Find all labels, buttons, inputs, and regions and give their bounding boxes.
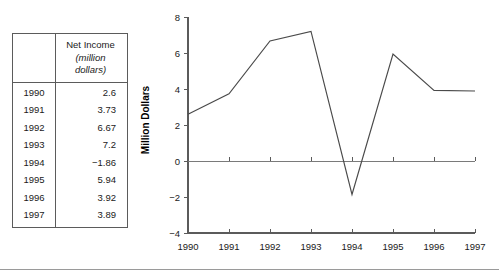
net-income-series-line [188,31,475,194]
row-year: 1992 [13,119,56,137]
table-row: 1997 3.89 [13,207,128,228]
row-year: 1996 [13,189,56,207]
x-axis-tick-label: 1992 [259,241,280,252]
y-axis-tick-label: 6 [175,48,180,59]
table-body: Net Income (million dollars) 1990 2.6 19… [13,34,128,228]
table-header-net-income: Net Income (million dollars) [56,34,128,83]
y-axis-ticks [184,17,188,233]
y-axis-tick-label: 4 [175,84,180,95]
figure-container: Net Income (million dollars) 1990 2.6 19… [0,0,499,277]
row-value: 3.92 [56,189,128,207]
table-corner-cell [13,34,56,83]
table-row: 1990 2.6 [13,82,128,102]
x-axis-tick-labels: 19901991199219931994199519961997 [177,241,485,252]
table-row: 1992 6.67 [13,119,128,137]
header-unit-line2: dollars) [60,64,121,77]
y-axis-tick-label: 8 [175,12,180,23]
row-year: 1990 [13,82,56,102]
x-axis-ticks [188,157,475,233]
x-axis-tick-label: 1990 [177,241,198,252]
x-axis-tick-label: 1997 [464,241,485,252]
x-axis-tick-label: 1993 [300,241,321,252]
y-axis-title: Million Dollars [140,85,151,154]
table-row: 1993 7.2 [13,137,128,155]
header-unit-line1: (million [60,52,121,65]
net-income-table: Net Income (million dollars) 1990 2.6 19… [12,33,128,228]
x-axis-tick-label: 1994 [341,241,362,252]
table-row: 1991 3.73 [13,102,128,120]
row-year: 1995 [13,172,56,190]
row-year: 1997 [13,207,56,228]
x-axis-tick-label: 1991 [218,241,239,252]
chart-svg: Million Dollars 86420−2−4 19901991199219… [135,0,499,277]
row-value: 3.73 [56,102,128,120]
row-value: −1.86 [56,154,128,172]
x-axis-tick-label: 1995 [382,241,403,252]
y-axis-tick-label: −2 [169,192,180,203]
row-value: 7.2 [56,137,128,155]
row-year: 1991 [13,102,56,120]
table-header-row: Net Income (million dollars) [13,34,128,83]
row-value: 2.6 [56,82,128,102]
table-row: 1994 −1.86 [13,154,128,172]
y-axis-tick-label: −4 [169,228,180,239]
y-axis-tick-label: 0 [175,156,180,167]
row-value: 3.89 [56,207,128,228]
row-year: 1993 [13,137,56,155]
header-main-label: Net Income [60,39,121,52]
table-row: 1996 3.92 [13,189,128,207]
row-value: 5.94 [56,172,128,190]
y-axis-tick-label: 2 [175,120,180,131]
y-axis-tick-labels: 86420−2−4 [169,12,180,239]
row-year: 1994 [13,154,56,172]
x-axis-tick-label: 1996 [423,241,444,252]
net-income-line-chart: Million Dollars 86420−2−4 19901991199219… [135,0,499,277]
footer-divider [0,269,499,270]
table-row: 1995 5.94 [13,172,128,190]
row-value: 6.67 [56,119,128,137]
